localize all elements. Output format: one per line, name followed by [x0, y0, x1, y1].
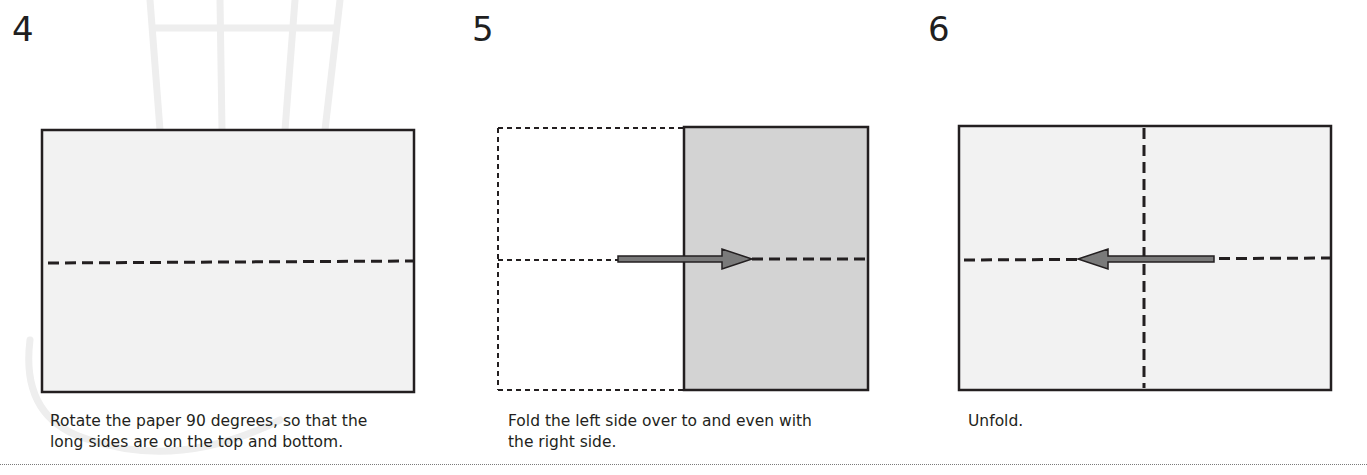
paper-diagram [40, 128, 418, 396]
step-6: 6 Unfold. [920, 0, 1367, 460]
section-divider [0, 464, 1367, 465]
step-number: 6 [928, 12, 950, 46]
fold-diagram [494, 124, 874, 394]
unfold-diagram [956, 124, 1334, 392]
step-caption: Unfold. [968, 411, 1023, 432]
step-4: 4 Rotate the paper 90 degrees, so that t… [0, 0, 460, 460]
step-caption: Rotate the paper 90 degrees, so that the… [50, 411, 367, 453]
step-number: 5 [472, 12, 494, 46]
step-number: 4 [12, 12, 34, 46]
step-caption: Fold the left side over to and even with… [508, 411, 812, 453]
step-5: 5 Fold the left side over to and even wi… [470, 0, 910, 460]
